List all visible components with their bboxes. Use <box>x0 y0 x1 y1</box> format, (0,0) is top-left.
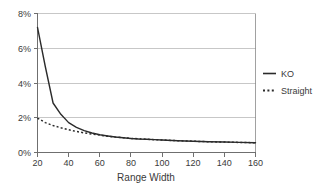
y-tick-label-2: 2% <box>18 113 31 123</box>
x-tick-label-120: 120 <box>186 158 201 168</box>
y-axis-ticks <box>34 14 38 153</box>
legend-label-ko: KO <box>281 69 294 79</box>
line-chart: 0% 2% 4% 6% 8% 20 40 60 80 100 120 140 1… <box>0 0 329 188</box>
y-tick-label-0: 0% <box>18 148 31 158</box>
x-axis-ticks <box>38 153 256 157</box>
data-series <box>38 27 256 142</box>
x-axis-tick-labels: 20 40 60 80 100 120 140 160 <box>32 158 263 168</box>
y-axis-tick-labels: 0% 2% 4% 6% 8% <box>18 9 31 158</box>
x-tick-label-20: 20 <box>32 158 42 168</box>
x-tick-label-60: 60 <box>95 158 105 168</box>
gridlines <box>38 14 256 118</box>
legend-label-straight: Straight <box>281 86 313 96</box>
x-axis-title: Range Width <box>117 172 175 183</box>
y-tick-label-6: 6% <box>18 44 31 54</box>
series-line-ko <box>38 27 256 142</box>
y-tick-label-8: 8% <box>18 9 31 19</box>
x-tick-label-140: 140 <box>217 158 232 168</box>
x-tick-label-40: 40 <box>64 158 74 168</box>
legend-item-straight[interactable]: Straight <box>263 86 313 96</box>
chart-container: 0% 2% 4% 6% 8% 20 40 60 80 100 120 140 1… <box>0 0 329 188</box>
x-tick-label-80: 80 <box>126 158 136 168</box>
x-tick-label-160: 160 <box>248 158 263 168</box>
legend: KO Straight <box>263 69 313 96</box>
legend-item-ko[interactable]: KO <box>263 69 294 79</box>
y-tick-label-4: 4% <box>18 79 31 89</box>
axis-lines <box>38 14 256 153</box>
x-tick-label-100: 100 <box>154 158 169 168</box>
